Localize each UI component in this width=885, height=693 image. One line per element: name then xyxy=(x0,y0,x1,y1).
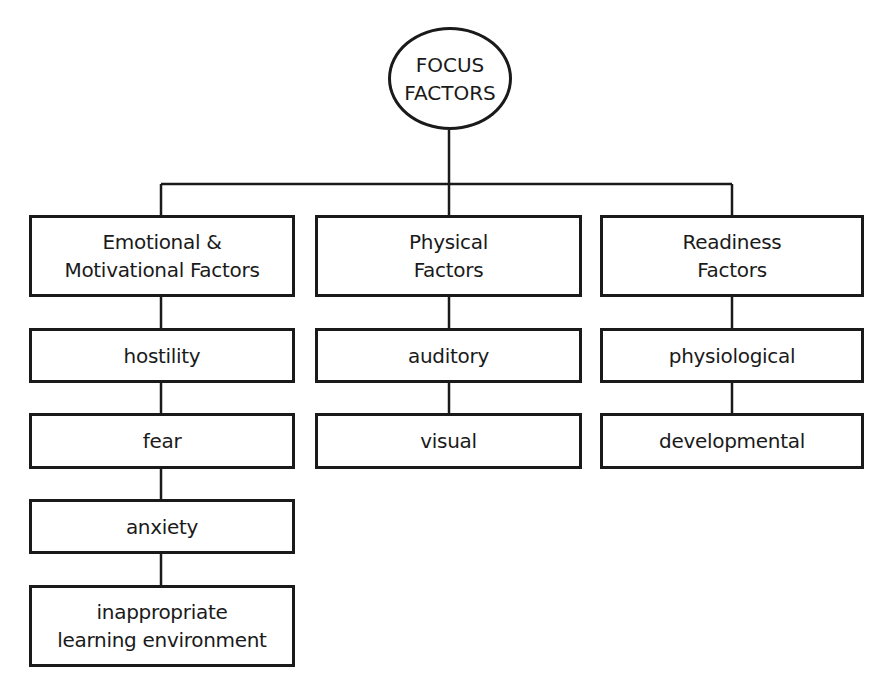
factor-label: hostility xyxy=(124,342,201,370)
root-node-focus-factors: FOCUS FACTORS xyxy=(388,27,512,130)
factor-visual: visual xyxy=(315,413,582,469)
factor-inappropriate-learning-environment: inappropriate learning environment xyxy=(29,585,295,667)
factor-auditory: auditory xyxy=(315,328,582,383)
factor-label: auditory xyxy=(408,342,489,370)
factor-label: physiological xyxy=(669,342,795,370)
root-label: FOCUS FACTORS xyxy=(404,51,496,107)
branch-physical: Physical Factors xyxy=(315,215,582,297)
factor-label: inappropriate learning environment xyxy=(57,598,266,654)
factor-physiological: physiological xyxy=(600,328,864,383)
factor-hostility: hostility xyxy=(29,328,295,383)
factor-label: fear xyxy=(143,427,182,455)
factor-anxiety: anxiety xyxy=(29,499,295,554)
branch-label: Emotional & Motivational Factors xyxy=(64,228,259,284)
factor-label: anxiety xyxy=(126,513,198,541)
factor-label: visual xyxy=(420,427,477,455)
branch-emotional-motivational: Emotional & Motivational Factors xyxy=(29,215,295,297)
factor-fear: fear xyxy=(29,413,295,469)
branch-readiness: Readiness Factors xyxy=(600,215,864,297)
factor-developmental: developmental xyxy=(600,413,864,469)
branch-label: Physical Factors xyxy=(409,228,488,284)
factor-label: developmental xyxy=(659,427,805,455)
branch-label: Readiness Factors xyxy=(683,228,782,284)
